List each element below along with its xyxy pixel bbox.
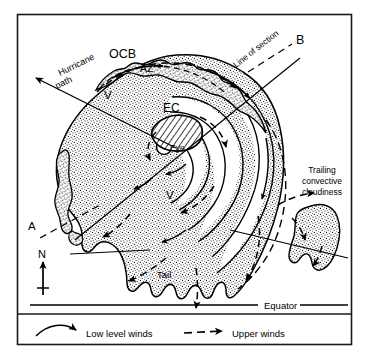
trailing-blob-outline — [289, 204, 340, 270]
label-eye: Eye — [170, 143, 185, 153]
label-v-upper: V — [104, 89, 112, 101]
label-point-a: A — [28, 220, 36, 232]
label-point-b: B — [296, 33, 304, 47]
legend-label-low-level-winds: Low level winds — [86, 328, 153, 339]
label-ocb: OCB — [109, 47, 136, 61]
hurricane-structure-diagram: OCB AZ EC Eye V V Tail A B Line of secti… — [0, 0, 368, 355]
label-north: N — [38, 248, 46, 260]
trailing-convective-blob — [289, 204, 340, 270]
label-trailing-line2: convective — [302, 176, 342, 186]
figure-canvas: OCB AZ EC Eye V V Tail A B Line of secti… — [0, 0, 368, 355]
label-equator: Equator — [264, 300, 297, 311]
label-ec: EC — [163, 101, 180, 115]
legend-label-upper-winds: Upper winds — [232, 328, 285, 339]
label-trailing-line1: Trailing — [308, 165, 336, 175]
label-v-lower: V — [166, 189, 174, 201]
label-tail: Tail — [157, 269, 171, 280]
label-trailing-line3: cloudiness — [302, 187, 342, 197]
label-az: AZ — [140, 62, 154, 74]
